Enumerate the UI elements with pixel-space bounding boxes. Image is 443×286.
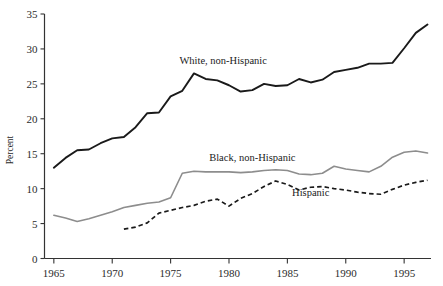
axes [45, 14, 432, 259]
y-tick-label: 25 [27, 78, 39, 90]
y-tick-label: 10 [27, 183, 39, 195]
x-tick-label: 1975 [160, 267, 183, 279]
y-tick-label: 20 [27, 113, 39, 125]
y-tick-label: 0 [32, 253, 38, 265]
y-tick-label: 35 [27, 8, 39, 20]
y-axis-title: Percent [5, 135, 15, 164]
x-tick-label: 1980 [218, 267, 241, 279]
series-label-black-non-hispanic: Black, non-Hispanic [209, 152, 296, 163]
y-axis-ticks: 05101520253035 [27, 8, 45, 265]
x-tick-label: 1995 [393, 267, 416, 279]
x-tick-label: 1970 [101, 267, 124, 279]
y-tick-label: 5 [32, 218, 38, 230]
series-label-white-non-hispanic: White, non-Hispanic [179, 55, 267, 66]
chart-figure: 0510152025303519651970197519801985199019… [0, 0, 443, 286]
series-line-hispanic [124, 180, 428, 229]
x-axis-ticks: 1965197019751980198519901995 [43, 259, 416, 279]
x-tick-label: 1985 [276, 267, 299, 279]
series-line-white-non-hispanic [54, 24, 428, 167]
y-tick-label: 30 [27, 43, 39, 55]
y-tick-label: 15 [27, 148, 39, 160]
series-label-hispanic: Hispanic [292, 187, 330, 198]
x-tick-label: 1990 [335, 267, 358, 279]
line-chart: 0510152025303519651970197519801985199019… [0, 0, 443, 286]
x-tick-label: 1965 [43, 267, 66, 279]
